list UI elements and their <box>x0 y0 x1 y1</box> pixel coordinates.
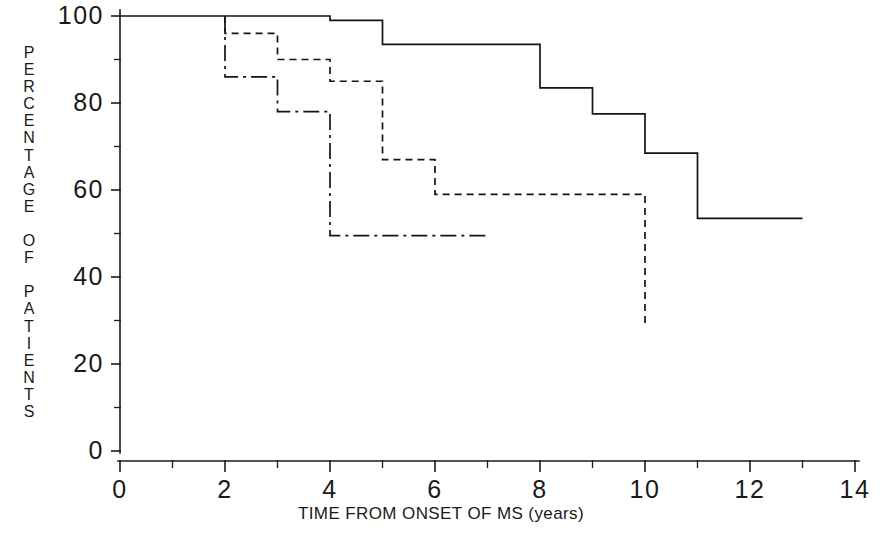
y-axis-title-letter: P <box>24 283 35 300</box>
y-axis-title-letter: E <box>24 352 35 369</box>
y-axis-title-letter: S <box>24 403 35 420</box>
y-tick-label: 0 <box>89 438 104 463</box>
y-tick-label: 40 <box>73 264 104 289</box>
y-tick-label: 80 <box>73 90 104 115</box>
x-tick-label: 12 <box>710 477 790 502</box>
y-axis-title-letter: R <box>23 78 35 95</box>
x-tick-label: 0 <box>80 477 160 502</box>
kaplan-meier-figure: 020406080100 02468101214 PERCENTAGE OF P… <box>0 0 882 545</box>
x-tick-label: 2 <box>185 477 265 502</box>
y-axis-title-letter: E <box>24 198 35 215</box>
y-axis-title-letter: O <box>23 232 35 249</box>
x-tick-label: 14 <box>815 477 882 502</box>
y-axis-title-letter: T <box>24 147 34 164</box>
y-axis-title-letter: T <box>24 386 34 403</box>
y-axis-title-letter: A <box>24 164 35 181</box>
y-axis-title-letter: G <box>23 181 35 198</box>
y-axis-title-letter: F <box>24 249 34 266</box>
y-axis-title: PERCENTAGE OF PATIENTS <box>16 44 42 420</box>
y-axis-title-letter: C <box>23 95 35 112</box>
x-axis-title: TIME FROM ONSET OF MS (years) <box>0 504 882 524</box>
y-axis-title-gap <box>27 266 31 283</box>
y-axis-title-letter: T <box>24 318 34 335</box>
plot-area <box>0 0 882 545</box>
y-tick-label: 20 <box>73 351 104 376</box>
series-group <box>120 16 803 325</box>
x-tick-label: 4 <box>290 477 370 502</box>
y-axis-title-letter: A <box>24 300 35 317</box>
y-axis-title-letter: N <box>23 129 35 146</box>
y-axis-title-letter: E <box>24 112 35 129</box>
y-axis-title-letter: N <box>23 369 35 386</box>
series-solid-curve <box>120 16 803 218</box>
ticks-group <box>111 16 855 472</box>
y-axis-title-letter: I <box>27 335 31 352</box>
series-dash-dot-curve <box>225 16 488 236</box>
y-axis-title-letter: P <box>24 44 35 61</box>
x-tick-label: 6 <box>395 477 475 502</box>
series-dashed-curve <box>225 16 645 325</box>
x-tick-label: 8 <box>500 477 580 502</box>
y-tick-label: 60 <box>73 177 104 202</box>
x-tick-label: 10 <box>605 477 685 502</box>
y-axis-title-letter: E <box>24 61 35 78</box>
y-tick-label: 100 <box>58 3 104 28</box>
y-axis-title-gap <box>27 215 31 232</box>
